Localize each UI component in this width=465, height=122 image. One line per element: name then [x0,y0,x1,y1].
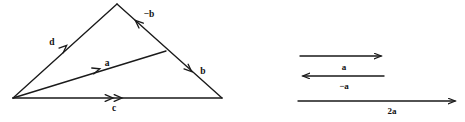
label-a: a [105,58,110,68]
label-vector-a: a [342,62,347,72]
label-minus-b: −b [144,9,155,19]
label-c: c [112,103,116,113]
label-d: d [49,37,55,47]
figure-canvas: d b −b a [0,0,465,122]
label-vector-2a: 2a [388,106,398,116]
label-vector-minus-a: −a [339,81,349,91]
vector-figure: d b −b a [0,0,465,122]
label-b: b [200,66,205,76]
figure-background [0,0,465,122]
